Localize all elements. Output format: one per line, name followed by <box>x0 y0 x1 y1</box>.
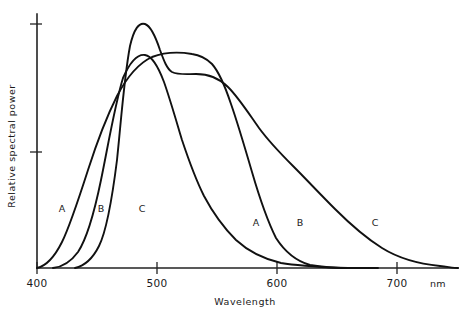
curve-label-right-C: C <box>372 217 379 228</box>
chart-canvas: 400 500 600 700 nm Wavelength Relative s… <box>0 0 465 312</box>
x-tick-label-600: 600 <box>266 277 287 289</box>
x-axis-unit-label: nm <box>430 278 446 289</box>
curve-B <box>53 55 378 268</box>
x-tick-label-700: 700 <box>386 277 407 289</box>
x-tick-label-400: 400 <box>26 277 47 289</box>
curve-label-left-A: A <box>59 203 66 214</box>
x-axis-title: Wavelength <box>214 296 275 307</box>
x-tick-label-500: 500 <box>146 277 167 289</box>
spectral-power-chart: 400 500 600 700 nm Wavelength Relative s… <box>0 0 465 312</box>
curve-label-right-A: A <box>253 217 260 228</box>
y-axis-title: Relative spectral power <box>6 84 17 207</box>
curve-label-left-B: B <box>98 203 105 214</box>
curve-label-right-B: B <box>297 217 304 228</box>
curve-label-left-C: C <box>139 203 146 214</box>
